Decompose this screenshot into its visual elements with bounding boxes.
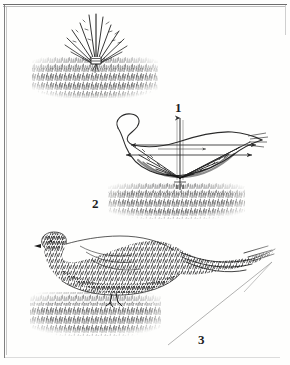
figure-label-2: 2: [92, 197, 99, 210]
figure-2-group: [108, 114, 268, 219]
diagram-artwork: [0, 0, 290, 365]
figure-3-ground-band: [30, 292, 161, 336]
bird-beak: [34, 244, 41, 248]
illustration-plate: 1 2 3: [0, 0, 290, 365]
figure-2-vertical-axis: [174, 118, 186, 182]
figure-label-1: 1: [175, 101, 182, 114]
figure-3-group: [30, 232, 275, 345]
figure-label-3: 3: [198, 333, 205, 346]
figure-3-guide-line: [168, 262, 272, 345]
figure-1-group: [32, 14, 158, 98]
figure-2-ground-band: [108, 183, 245, 219]
bird-eye: [50, 240, 52, 242]
figure-1-sprout: [65, 14, 127, 64]
